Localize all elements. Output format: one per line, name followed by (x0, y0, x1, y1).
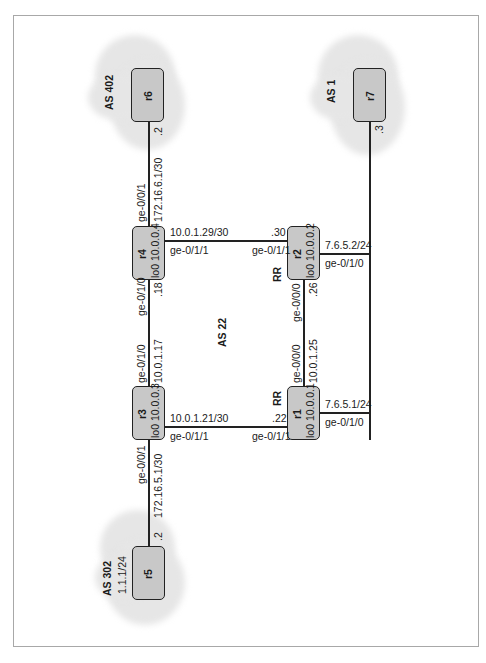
router-name-r7: r7 (365, 91, 376, 101)
r2-host-30: .30 (271, 227, 286, 238)
diagram-frame (13, 15, 479, 647)
r7-host-label: .3 (374, 125, 385, 134)
r4-if-ge-0-1-1: ge-0/1/1 (170, 245, 209, 256)
lan-segment (369, 122, 371, 440)
router-loopback-r3: lo0 10.0.0.3 (150, 383, 161, 438)
r5-host-label: .2 (153, 532, 164, 541)
r3-if-ge-0-0-1: ge-0/0/1 (136, 445, 147, 484)
link-r2-r1 (303, 280, 305, 386)
r2-if-ge-0-1-0: ge-0/1/0 (325, 258, 364, 269)
link-r2-lan (320, 253, 370, 255)
router-loopback-r2: lo0 10.0.0.2 (305, 223, 316, 278)
r3-r5-subnet: 172.16.5.1/30 (153, 454, 164, 518)
r6-host-label: .2 (153, 127, 164, 136)
router-loopback-r4: lo0 10.0.0.4 (150, 223, 161, 278)
as-label-22: AS 22 (217, 318, 228, 347)
router-name-r5: r5 (143, 569, 154, 579)
router-name-r1: r1 (292, 409, 303, 419)
router-loopback-r1: lo0 10.0.0.1 (305, 383, 316, 438)
r3-if-ge-0-1-0: ge-0/1/0 (136, 344, 147, 383)
r2-if-ge-0-0-0: ge-0/0/0 (291, 283, 302, 322)
as-label-1: AS 1 (326, 80, 337, 103)
as-label-402: AS 402 (104, 75, 115, 110)
r4-r2-subnet: 10.0.1.29/30 (170, 227, 228, 238)
r1-host-22: .22 (272, 413, 287, 424)
router-name-r6: r6 (143, 91, 154, 101)
rr-label-r2: RR (272, 267, 283, 282)
as302-subnet: 1.1.1/24 (117, 556, 128, 594)
r4-if-ge-0-0-1: ge-0/0/1 (136, 183, 147, 222)
r2-if-ge-0-1-1: ge-0/1/1 (252, 245, 291, 256)
link-r3-r5 (148, 440, 150, 546)
r2-lan-addr: 7.6.5.2/24 (325, 240, 372, 251)
router-name-r2: r2 (292, 249, 303, 259)
link-r3-r1 (165, 426, 287, 428)
link-r6-r4 (148, 122, 150, 226)
r2-host-26: .26 (308, 282, 319, 297)
r4-r3-subnet: 10.0.1.17 (153, 339, 164, 383)
r3-if-ge-0-1-1: ge-0/1/1 (170, 431, 209, 442)
link-r1-lan (320, 412, 370, 414)
link-r4-r2 (165, 240, 287, 242)
rr-label-r1: RR (272, 391, 283, 406)
as-label-302: AS 302 (102, 561, 113, 596)
r4-r6-subnet: 172.16.6.1/30 (153, 158, 164, 222)
r1-if-ge-0-0-0: ge-0/0/0 (291, 344, 302, 383)
r3-r1-subnet: 10.0.1.21/30 (170, 413, 228, 424)
r2-r1-subnet: 10.0.1.25 (308, 339, 319, 383)
r1-if-ge-0-1-1: ge-0/1/1 (252, 431, 291, 442)
r4-host-18: .18 (153, 282, 164, 297)
r4-if-ge-0-1-0: ge-0/1/0 (136, 277, 147, 316)
router-name-r3: r3 (137, 409, 148, 419)
r1-if-ge-0-1-0: ge-0/1/0 (325, 417, 364, 428)
router-name-r4: r4 (137, 249, 148, 259)
link-r4-r3 (148, 280, 150, 386)
r1-lan-addr: 7.6.5.1/24 (325, 399, 372, 410)
